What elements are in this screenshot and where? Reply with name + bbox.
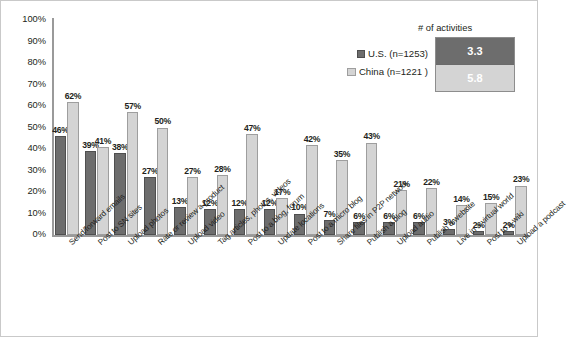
bar-value-label: 23% [511,175,531,184]
bar-china[interactable] [426,188,438,235]
bar-china[interactable] [217,175,229,235]
bar-group: 12%47% [231,20,261,235]
bar-china[interactable] [515,186,527,235]
bar-us[interactable] [264,209,276,235]
bar-china[interactable] [276,198,288,235]
bar-us[interactable] [353,222,365,235]
y-axis-tick-50: 50% [1,123,46,132]
bar-value-label: 21% [392,180,412,189]
bar-china[interactable] [246,134,258,235]
bar-china[interactable] [485,203,497,235]
bar-china[interactable] [187,177,199,235]
bar-group: 12%28% [201,20,231,235]
y-axis-tick-60: 60% [1,101,46,110]
bar-value-label: 47% [242,124,262,133]
bar-us[interactable] [114,153,126,235]
activities-box: 3.3 5.8 [435,37,515,92]
bar-group: 38%57% [112,20,142,235]
y-axis-tick-30: 30% [1,166,46,175]
legend-item-us[interactable]: U.S. (n=1253) [278,45,428,63]
bar-us[interactable] [294,214,306,236]
bar-value-label: 28% [213,165,233,174]
bar-value-label: 27% [183,167,203,176]
bar-group: 39%41% [82,20,112,235]
bar-us[interactable] [324,220,336,235]
y-axis-tick-20: 20% [1,187,46,196]
bar-china[interactable] [97,147,109,235]
bar-value-label: 14% [452,195,472,204]
bar-us[interactable] [413,222,425,235]
y-axis-tick-70: 70% [1,80,46,89]
bar-china[interactable] [366,143,378,235]
bar-value-label: 22% [422,178,442,187]
legend-swatch-china-icon [347,68,356,77]
bar-us[interactable] [503,231,515,235]
y-axis-tick-labels: 100%90%80%70%60%50%40%30%20%10%0% [1,1,50,337]
bar-group: 13%27% [172,20,202,235]
bar-us[interactable] [443,229,455,235]
bar-us[interactable] [55,136,67,235]
bar-value-label: 50% [153,117,173,126]
bar-china[interactable] [456,205,468,235]
legend-label-china: China (n=1221 ) [359,67,428,77]
bar-china[interactable] [396,190,408,235]
legend-item-china[interactable]: China (n=1221 ) [278,63,428,81]
bar-value-label: 35% [332,150,352,159]
x-axis-line [52,235,530,237]
bar-us[interactable] [85,151,97,235]
bar-value-label: 17% [272,188,292,197]
activities-value-us: 3.3 [436,38,514,65]
legend-label-us: U.S. (n=1253) [368,49,428,59]
legend-swatch-us-icon [357,50,366,59]
bar-china[interactable] [127,112,139,235]
bar-value-label: 57% [123,102,143,111]
bar-china[interactable] [67,102,79,235]
y-axis-tick-0: 0% [1,230,46,239]
bar-group: 46%62% [52,20,82,235]
bar-us[interactable] [234,209,246,235]
bar-value-label: 15% [481,193,501,202]
bar-china[interactable] [157,128,169,236]
chart-legend: U.S. (n=1253) China (n=1221 ) [278,45,428,81]
bar-value-label: 43% [362,132,382,141]
y-axis-tick-100: 100% [1,15,46,24]
bar-value-label: 42% [302,135,322,144]
y-axis-tick-80: 80% [1,58,46,67]
y-axis-tick-90: 90% [1,37,46,46]
bar-us[interactable] [144,177,156,235]
y-axis-tick-10: 10% [1,209,46,218]
bar-us[interactable] [383,222,395,235]
bar-value-label: 62% [63,92,83,101]
activities-box-title: # of activities [418,23,472,32]
bar-us[interactable] [473,231,485,235]
bar-group: 27%50% [142,20,172,235]
bar-china[interactable] [306,145,318,235]
activities-value-china: 5.8 [436,65,514,92]
bar-china[interactable] [336,160,348,235]
bar-us[interactable] [204,209,216,235]
y-axis-tick-40: 40% [1,144,46,153]
bar-us[interactable] [174,207,186,235]
